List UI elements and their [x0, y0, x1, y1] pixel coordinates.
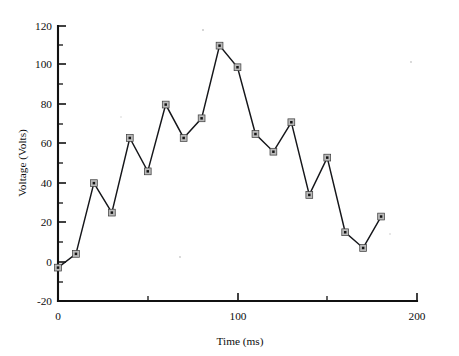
data-point-marker: [360, 245, 367, 252]
data-point-marker: [198, 115, 205, 122]
data-point-marker: [324, 154, 331, 161]
y-tick-label-0: 0: [46, 256, 52, 268]
scan-artifacts: [120, 29, 412, 258]
data-point-marker: [126, 135, 133, 142]
x-axis-major-ticks: [58, 293, 417, 301]
y-tick-label-minus20: -20: [37, 295, 52, 307]
y-tick-label-80: 80: [41, 98, 53, 110]
data-point-marker: [144, 168, 151, 175]
data-point-marker: [234, 64, 241, 71]
y-axis-title: Voltage (Volts): [16, 129, 29, 197]
data-point-markers: [55, 42, 385, 271]
chart-container: 120 100 80 60 40 20 0 -20 0 100 200 Volt…: [0, 0, 459, 356]
data-point-marker: [180, 135, 187, 142]
y-tick-label-100: 100: [35, 58, 52, 70]
y-tick-label-60: 60: [41, 137, 53, 149]
x-tick-label-100: 100: [230, 310, 247, 322]
x-tick-label-200: 200: [409, 310, 426, 322]
data-point-marker: [108, 209, 115, 216]
data-point-marker: [342, 229, 349, 236]
data-point-marker: [252, 131, 259, 138]
data-point-marker: [73, 250, 80, 257]
data-point-marker: [162, 101, 169, 108]
data-point-marker: [55, 264, 62, 271]
x-tick-label-0: 0: [55, 310, 61, 322]
voltage-vs-time-line-chart: 120 100 80 60 40 20 0 -20 0 100 200 Volt…: [0, 0, 459, 356]
data-point-marker: [91, 180, 98, 187]
voltage-series-line: [58, 46, 381, 268]
x-axis-title: Time (ms): [217, 335, 264, 348]
data-point-marker: [216, 42, 223, 49]
data-point-marker: [288, 119, 295, 126]
data-point-marker: [378, 213, 385, 220]
y-tick-label-40: 40: [41, 177, 53, 189]
data-point-marker: [270, 148, 277, 155]
y-tick-label-20: 20: [41, 216, 53, 228]
data-point-marker: [306, 192, 313, 199]
y-tick-label-120: 120: [35, 20, 52, 32]
